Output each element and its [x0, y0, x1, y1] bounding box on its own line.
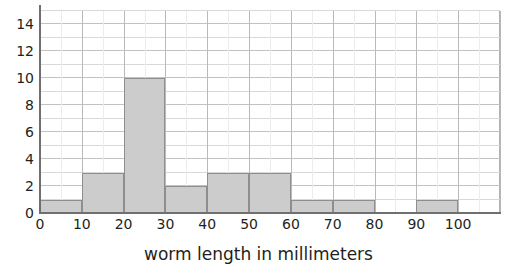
histogram-figure: worm length graph 02468101214 0102030405…: [0, 0, 517, 280]
histogram-bar: [82, 173, 124, 213]
histogram-bar: [165, 186, 207, 213]
histogram-bar: [124, 78, 166, 213]
y-tick-label: 4: [0, 152, 34, 166]
y-tick-label: 14: [0, 17, 34, 31]
y-tick-label: 8: [0, 98, 34, 112]
x-tick-label: 0: [36, 216, 45, 232]
x-tick-label: 70: [324, 216, 342, 232]
y-tick-label: 0: [0, 206, 34, 220]
x-tick-label: 30: [157, 216, 175, 232]
x-axis-line: [39, 212, 501, 214]
plot-area: [40, 11, 500, 213]
x-tick-label: 20: [115, 216, 133, 232]
x-tick-label: 80: [366, 216, 384, 232]
x-tick-label: 60: [282, 216, 300, 232]
y-tick-label: 12: [0, 44, 34, 58]
y-axis-line: [39, 5, 41, 214]
histogram-bar: [333, 200, 375, 213]
histogram-bar: [416, 200, 458, 213]
y-tick-label: 6: [0, 125, 34, 139]
x-tick-label: 90: [407, 216, 425, 232]
x-axis-tick-labels: 0102030405060708090100: [40, 216, 500, 236]
histogram-bar: [207, 173, 249, 213]
histogram-bar: [249, 173, 291, 213]
x-tick-label: 50: [240, 216, 258, 232]
x-tick-label: 100: [445, 216, 472, 232]
x-axis-title: worm length in millimeters: [0, 244, 517, 264]
x-tick-label: 10: [73, 216, 91, 232]
y-tick-label: 10: [0, 71, 34, 85]
histogram-bar: [40, 200, 82, 213]
bars-group: [40, 11, 500, 213]
gridline-vertical: [500, 11, 501, 213]
x-tick-label: 40: [198, 216, 216, 232]
histogram-bar: [291, 200, 333, 213]
y-axis-tick-labels: 02468101214: [0, 11, 34, 213]
y-tick-label: 2: [0, 179, 34, 193]
